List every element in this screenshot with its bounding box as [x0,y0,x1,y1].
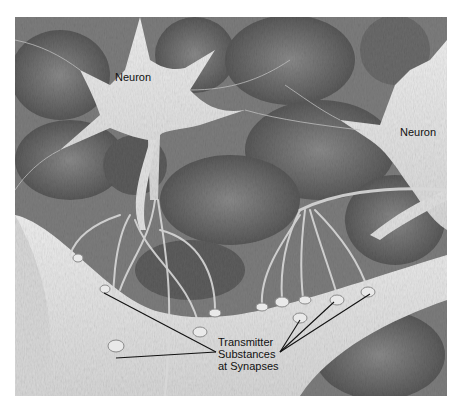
label-neuron-right: Neuron [400,126,436,138]
label-line-1: Transmitter [218,336,279,348]
synapse-bouton [108,340,124,352]
label-line-3: at Synapses [218,360,279,372]
label-line-2: Substances [218,348,279,360]
label-neuron-left: Neuron [115,71,151,83]
label-transmitter-substances: Transmitter Substances at Synapses [218,336,279,372]
